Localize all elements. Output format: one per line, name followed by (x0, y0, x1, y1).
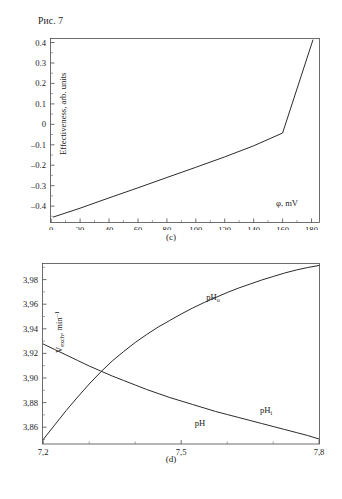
y-tick-label: 0.2 (35, 78, 46, 88)
ph-outer-curve-label: pHo (206, 292, 220, 303)
y-tick-label: 0.1 (35, 99, 46, 109)
x-axis-ticks-c (51, 219, 311, 223)
y-tick-label: –0.3 (30, 181, 46, 191)
x-tick-label: 60 (134, 225, 143, 230)
x-axis-tick-labels-c: 0 20 40 60 80 100 120 140 160 180 (49, 225, 318, 230)
y-axis-title-d-rest: , min (54, 317, 64, 335)
ph-inner-curve-d (43, 344, 319, 439)
y-tick-label: –0.4 (30, 201, 47, 211)
panel-c-plot: 0.4 0.3 0.2 0.1 0 –0.1 –0.2 –0.3 –0.4 (0, 30, 342, 230)
y-tick-label: 3,86 (23, 422, 39, 432)
ph-outer-curve-d (43, 266, 319, 440)
y-axis-tick-labels-c: 0.4 0.3 0.2 0.1 0 –0.1 –0.2 –0.3 –0.4 (30, 38, 47, 212)
y-tick-label: 0.4 (35, 38, 46, 48)
ph-outer-label-main: pH (206, 292, 217, 302)
panel-c: 0.4 0.3 0.2 0.1 0 –0.1 –0.2 –0.3 –0.4 (0, 30, 342, 250)
y-axis-title-d: Vexch, min–1 (53, 311, 65, 353)
x-tick-label: 180 (305, 225, 318, 230)
y-axis-title-d-sub: exch (58, 334, 65, 347)
plot-frame-d (43, 264, 320, 445)
x-tick-label: 120 (218, 225, 231, 230)
x-axis-title-c: φ, mV (276, 198, 299, 208)
panel-c-label: (c) (0, 232, 342, 242)
y-axis-tick-labels-d: 3,98 3,96 3,94 3,92 3,90 3,88 3,86 (23, 275, 39, 433)
panel-d: 3,98 3,96 3,94 3,92 3,90 3,88 3,86 7, (0, 258, 342, 488)
y-axis-title-d-sup: –1 (53, 311, 60, 318)
ph-inner-label-main: pH (260, 405, 271, 415)
y-tick-label: 0.3 (35, 58, 46, 68)
x-tick-label: 140 (247, 225, 260, 230)
y-tick-label: 3,96 (23, 299, 39, 309)
y-tick-label: 3,92 (23, 348, 38, 358)
y-axis-ticks-d (43, 267, 47, 439)
y-tick-label: 0 (42, 119, 46, 129)
figure-container: Рис. 7 (0, 0, 342, 499)
y-tick-label: 3,88 (23, 398, 38, 408)
y-tick-label: 3,98 (23, 275, 38, 285)
effectiveness-line-c (53, 40, 313, 217)
x-tick-label: 0 (49, 225, 53, 230)
x-tick-label: 160 (276, 225, 289, 230)
x-axis-title-d: pH (195, 418, 206, 428)
y-axis-ticks-c (51, 43, 55, 217)
ph-inner-curve-label: pHi (260, 405, 273, 416)
panel-d-label: (d) (0, 454, 342, 464)
figure-number-label: Рис. 7 (38, 16, 63, 26)
y-axis-title-c: Effectiveness, arb. units (58, 72, 68, 155)
x-tick-label: 100 (189, 225, 202, 230)
x-tick-label: 40 (105, 225, 114, 230)
y-tick-label: 3,90 (23, 373, 38, 383)
x-axis-ticks-d (43, 440, 319, 444)
plot-frame-c (51, 39, 320, 223)
panel-d-plot: 3,98 3,96 3,94 3,92 3,90 3,88 3,86 7, (0, 258, 342, 458)
y-tick-label: 3,94 (23, 324, 39, 334)
ph-inner-label-sub: i (270, 409, 272, 416)
x-tick-label: 80 (163, 225, 172, 230)
ph-outer-label-sub: o (217, 296, 220, 303)
x-tick-label: 20 (76, 225, 85, 230)
y-tick-label: –0.2 (30, 160, 46, 170)
y-tick-label: –0.1 (30, 140, 46, 150)
